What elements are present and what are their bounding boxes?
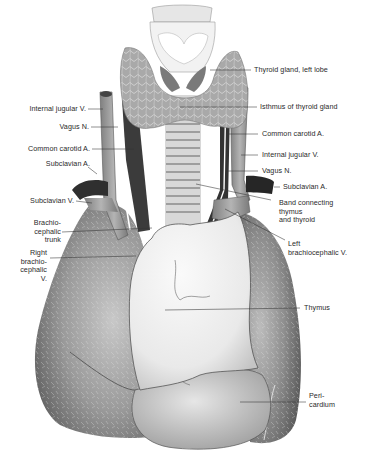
label-vagus-left: Vagus N. [60, 123, 89, 132]
label-subclavian-a-left: Subclavian A. [46, 160, 90, 169]
label-left-brachiocephalic: Left brachiocephalic V. [288, 240, 347, 257]
label-vagus-right: Vagus N. [262, 167, 291, 176]
label-subclavian-a-right: Subclavian A. [283, 183, 327, 192]
label-common-carotid-left: Common carotid A. [28, 145, 90, 154]
label-band: Band connecting thymus and thyroid [279, 199, 333, 225]
label-isthmus: Isthmus of thyroid gland [260, 103, 338, 112]
label-thymus: Thymus [304, 304, 330, 313]
label-internal-jugular-left: Internal jugular V. [29, 105, 86, 114]
label-brachiocephalic-trunk: Brachio- cephalic trunk [34, 219, 61, 245]
label-right-brachiocephalic: Right brachio- cephalic V. [20, 249, 47, 283]
label-thyroid-left-lobe: Thyroid gland, left lobe [254, 66, 328, 75]
thymus [129, 212, 258, 390]
larynx [150, 5, 215, 92]
label-internal-jugular-right: Internal jugular V. [262, 151, 319, 160]
label-subclavian-v: Subclavian V. [30, 197, 74, 206]
label-pericardium: Peri- cardium [309, 392, 335, 409]
label-common-carotid-right: Common carotid A. [262, 130, 324, 139]
